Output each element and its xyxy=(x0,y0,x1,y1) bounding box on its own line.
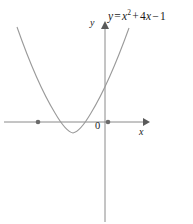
parabola-figure: y=x2+4x−1 y x 0 xyxy=(0,0,193,224)
equation-equals: = xyxy=(113,10,122,22)
x-axis-arrowhead xyxy=(143,118,150,126)
x-intercept-right-dot xyxy=(106,120,111,125)
parabola-curve xyxy=(17,27,129,133)
x-axis-label: x xyxy=(139,127,143,137)
x-intercept-left-dot xyxy=(36,120,41,125)
y-axis-label: y xyxy=(90,18,94,28)
equation-label: y=x2+4x−1 xyxy=(108,11,166,23)
graph-canvas xyxy=(0,0,193,224)
origin-label: 0 xyxy=(95,121,100,132)
equation-constant: 1 xyxy=(160,10,166,22)
equation-plus-sign: + xyxy=(131,10,140,22)
equation-minus-sign: − xyxy=(151,10,160,22)
